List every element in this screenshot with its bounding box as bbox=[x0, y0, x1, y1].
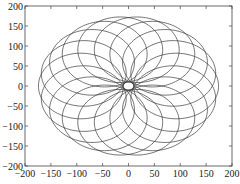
curve-circle-4 bbox=[94, 17, 179, 83]
curve-circle-1 bbox=[131, 41, 216, 107]
curve-circle-13 bbox=[78, 89, 163, 155]
x-tick-label-5: 50 bbox=[149, 168, 159, 179]
chart: −200−150−100−50050100150200 200150100500… bbox=[0, 0, 240, 184]
curve-circle-8 bbox=[41, 41, 126, 107]
x-tick-label-6: 100 bbox=[173, 168, 188, 179]
y-tick-label-7: −150 bbox=[2, 141, 23, 152]
curve-circle-17 bbox=[131, 66, 216, 132]
curve-group bbox=[38, 17, 218, 155]
y-tick-label-1: 150 bbox=[8, 21, 23, 32]
y-tick-label-8: −200 bbox=[2, 161, 23, 172]
x-tick-label-2: −100 bbox=[66, 168, 87, 179]
y-tick-label-2: 100 bbox=[8, 41, 23, 52]
curve-circle-14 bbox=[94, 89, 179, 155]
x-tick-label-4: 0 bbox=[126, 168, 131, 179]
tick-group bbox=[25, 6, 232, 166]
x-tick-labels: −200−150−100−50050100150200 bbox=[15, 168, 240, 179]
curve-circle-5 bbox=[78, 17, 163, 83]
x-tick-label-1: −150 bbox=[41, 168, 62, 179]
y-tick-labels: 200150100500−50−100−150−200 bbox=[2, 1, 23, 172]
y-tick-label-4: 0 bbox=[18, 81, 23, 92]
curve-circle-9 bbox=[38, 53, 123, 119]
y-tick-label-6: −100 bbox=[2, 121, 23, 132]
x-tick-label-8: 200 bbox=[225, 168, 240, 179]
x-tick-label-7: 150 bbox=[199, 168, 214, 179]
curve-circle-0 bbox=[134, 53, 219, 119]
y-tick-label-0: 200 bbox=[8, 1, 23, 12]
y-tick-label-3: 50 bbox=[13, 61, 23, 72]
x-tick-label-3: −50 bbox=[95, 168, 111, 179]
curve-circle-10 bbox=[41, 66, 126, 132]
y-tick-label-5: −50 bbox=[7, 101, 23, 112]
plot-frame bbox=[25, 6, 232, 166]
